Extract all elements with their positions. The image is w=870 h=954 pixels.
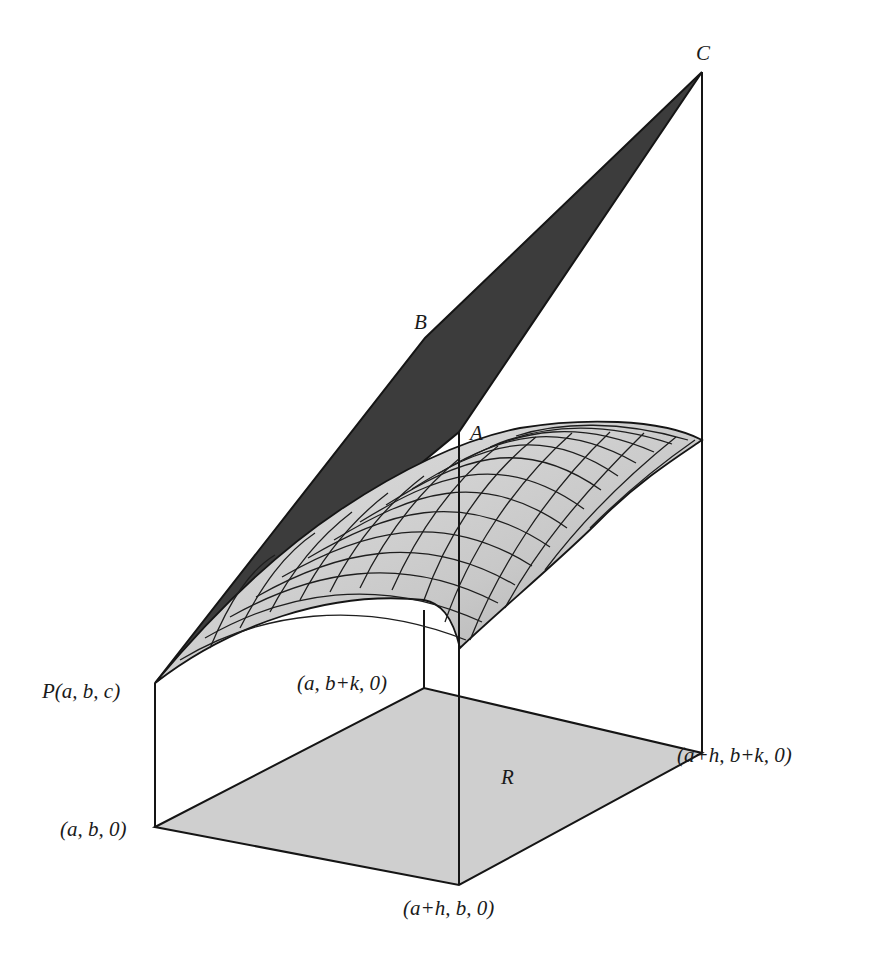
label-c: C xyxy=(696,41,711,65)
region-r xyxy=(155,688,702,885)
surface-patch xyxy=(155,422,702,683)
label-p: P(a, b, c) xyxy=(41,679,120,703)
tangent-plane-diagram: C B A P(a, b, c) (a, b, 0) (a, b+k, 0) (… xyxy=(0,0,870,954)
label-abk0: (a, b+k, 0) xyxy=(297,671,387,695)
label-r: R xyxy=(500,765,514,789)
label-ahbk0: (a+h, b+k, 0) xyxy=(677,743,792,767)
label-ab0: (a, b, 0) xyxy=(60,817,127,841)
label-a: A xyxy=(468,421,483,445)
label-ahb0: (a+h, b, 0) xyxy=(403,896,494,920)
label-b: B xyxy=(414,310,427,334)
